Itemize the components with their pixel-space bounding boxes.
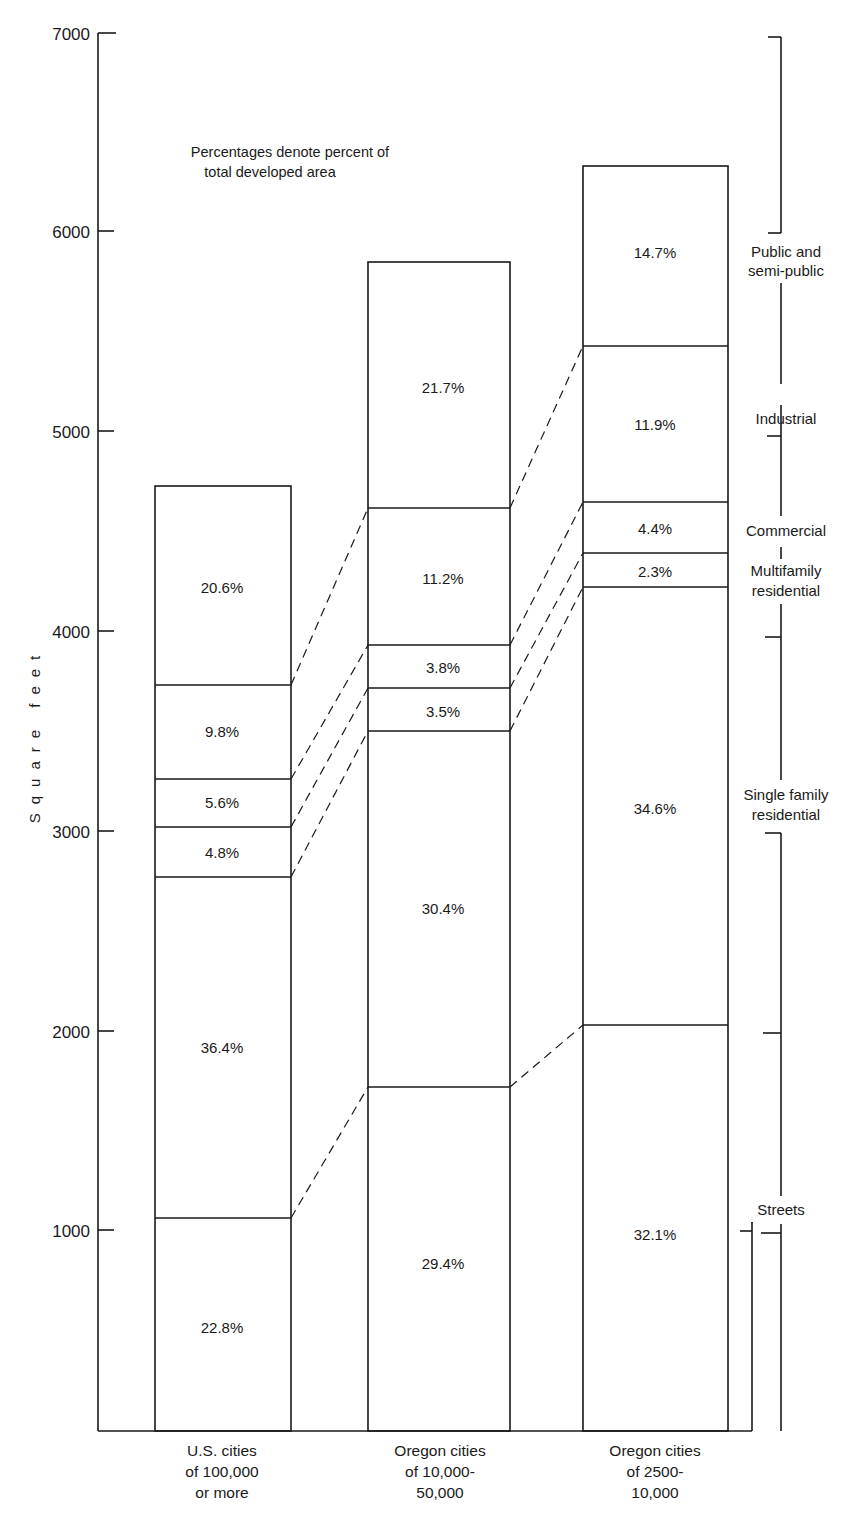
- category-2-line1: Oregon cities: [394, 1442, 486, 1459]
- legend-commercial: Commercial: [746, 522, 826, 539]
- legend-single-family-line1: Single family: [743, 786, 829, 803]
- segment-label-single-family: 34.6%: [634, 800, 677, 817]
- segment-label-industrial: 11.9%: [634, 416, 675, 433]
- bar-oregon-cities-2500-10000: 32.1% 34.6% 2.3% 4.4% 11.9% 14.7%: [583, 166, 728, 1431]
- segment-label-public: 20.6%: [201, 579, 244, 596]
- category-1-line1: U.S. cities: [187, 1442, 257, 1459]
- svg-text:total developed area: total developed area: [204, 164, 336, 180]
- y-tick-2000: 2000: [52, 1023, 90, 1042]
- category-2-line3: 50,000: [416, 1484, 464, 1501]
- legend-multifamily-line2: residential: [752, 582, 820, 599]
- segment-label-streets: 29.4%: [422, 1255, 465, 1272]
- y-axis-label: Square feet: [26, 647, 43, 824]
- segment-label-multifamily: 3.5%: [426, 703, 460, 720]
- category-3-line2: of 2500-: [627, 1463, 684, 1480]
- category-2-line2: of 10,000-: [405, 1463, 475, 1480]
- legend-streets: Streets: [757, 1201, 805, 1218]
- category-1-line2: of 100,000: [185, 1463, 259, 1480]
- category-3-line1: Oregon cities: [609, 1442, 701, 1459]
- category-3-line3: 10,000: [631, 1484, 679, 1501]
- svg-text:Percentages denote percent of: Percentages denote percent of: [191, 144, 390, 160]
- stacked-bar-chart: 7000 6000 5000 4000 3000 2000 1000 Squar…: [0, 0, 854, 1523]
- segment-label-multifamily: 2.3%: [638, 563, 672, 580]
- bracket-legend: Public and semi-public Industrial Commer…: [740, 37, 829, 1431]
- bar-us-cities-100000: 22.8% 36.4% 4.8% 5.6% 9.8% 20.6%: [155, 486, 291, 1431]
- segment-label-single-family: 30.4%: [422, 900, 465, 917]
- segment-label-industrial: 11.2%: [422, 570, 463, 587]
- segment-label-commercial: 3.8%: [426, 659, 460, 676]
- category-1-line3: or more: [195, 1484, 248, 1501]
- y-tick-7000: 7000: [52, 25, 90, 44]
- legend-single-family-line2: residential: [752, 806, 820, 823]
- legend-multifamily-line1: Multifamily: [751, 562, 822, 579]
- y-axis: 7000 6000 5000 4000 3000 2000 1000 Squar…: [26, 25, 116, 1431]
- y-tick-4000: 4000: [52, 623, 90, 642]
- legend-industrial: Industrial: [756, 410, 817, 427]
- segment-label-public: 21.7%: [422, 379, 465, 396]
- segment-label-single-family: 36.4%: [201, 1039, 244, 1056]
- chart-note: Percentages denote percent of total deve…: [191, 144, 390, 180]
- x-axis-categories: U.S. cities of 100,000 or more Oregon ci…: [185, 1442, 701, 1501]
- y-tick-6000: 6000: [52, 223, 90, 242]
- segment-label-streets: 32.1%: [634, 1226, 677, 1243]
- y-tick-3000: 3000: [52, 823, 90, 842]
- segment-label-commercial: 5.6%: [205, 794, 239, 811]
- legend-public-line1: Public and: [751, 243, 821, 260]
- y-tick-5000: 5000: [52, 423, 90, 442]
- bar-oregon-cities-10000-50000: 29.4% 30.4% 3.5% 3.8% 11.2% 21.7%: [368, 262, 510, 1431]
- segment-label-public: 14.7%: [634, 244, 677, 261]
- y-tick-1000: 1000: [52, 1222, 90, 1241]
- segment-label-multifamily: 4.8%: [205, 844, 239, 861]
- legend-public-line2: semi-public: [748, 262, 824, 279]
- segment-label-commercial: 4.4%: [638, 520, 672, 537]
- segment-label-streets: 22.8%: [201, 1319, 244, 1336]
- segment-label-industrial: 9.8%: [205, 723, 239, 740]
